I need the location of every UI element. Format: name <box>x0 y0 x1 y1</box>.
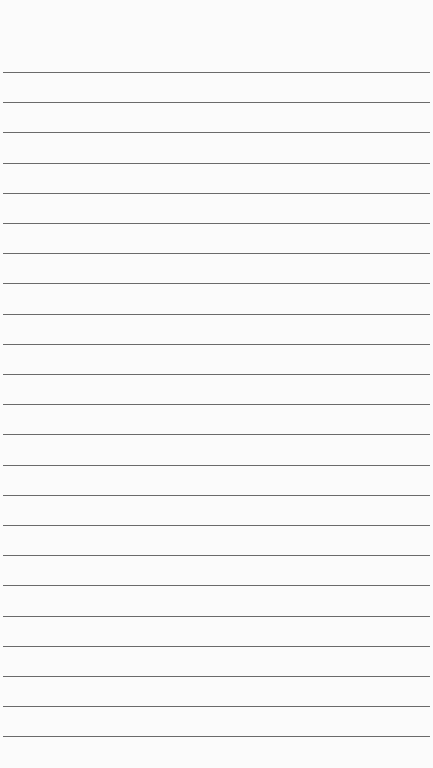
ruled-line <box>3 314 430 315</box>
ruled-line <box>3 253 430 254</box>
ruled-line <box>3 434 430 435</box>
ruled-line <box>3 585 430 586</box>
ruled-line <box>3 555 430 556</box>
lined-paper <box>0 0 433 768</box>
ruled-line <box>3 132 430 133</box>
ruled-line <box>3 344 430 345</box>
ruled-line <box>3 404 430 405</box>
ruled-line <box>3 72 430 73</box>
ruled-line <box>3 736 430 737</box>
ruled-line <box>3 676 430 677</box>
ruled-line <box>3 616 430 617</box>
ruled-line <box>3 223 430 224</box>
ruled-line <box>3 706 430 707</box>
ruled-line <box>3 525 430 526</box>
ruled-line <box>3 163 430 164</box>
ruled-line <box>3 646 430 647</box>
ruled-line <box>3 102 430 103</box>
ruled-line <box>3 465 430 466</box>
ruled-line <box>3 374 430 375</box>
ruled-line <box>3 283 430 284</box>
ruled-line <box>3 193 430 194</box>
ruled-line <box>3 495 430 496</box>
